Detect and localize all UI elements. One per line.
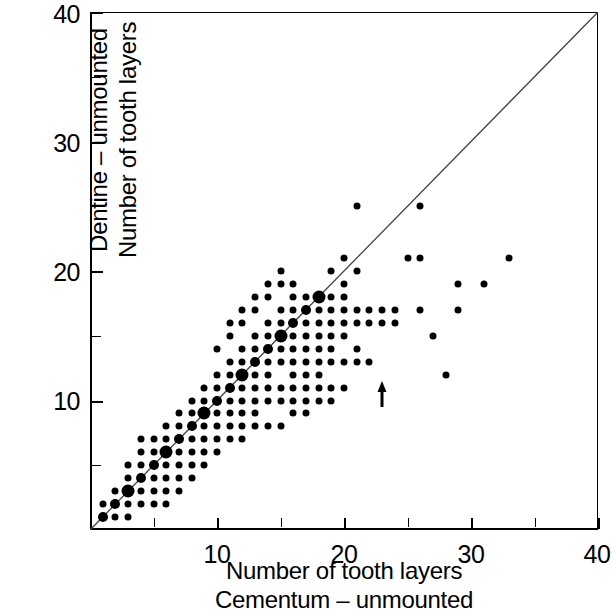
- data-point: [226, 397, 233, 404]
- data-point: [301, 305, 311, 315]
- data-point: [150, 488, 157, 495]
- data-point: [353, 268, 360, 275]
- data-point: [341, 319, 348, 326]
- data-point: [277, 280, 284, 287]
- data-point: [226, 332, 233, 339]
- data-point: [341, 332, 348, 339]
- data-point: [341, 358, 348, 365]
- data-point: [302, 397, 309, 404]
- data-point: [252, 384, 259, 391]
- data-point: [175, 462, 182, 469]
- data-point: [226, 319, 233, 326]
- data-point: [366, 319, 373, 326]
- data-point: [188, 449, 195, 456]
- data-point: [239, 423, 246, 430]
- data-point: [201, 436, 208, 443]
- data-point: [239, 306, 246, 313]
- data-point: [455, 306, 462, 313]
- data-point: [391, 319, 398, 326]
- data-point: [277, 358, 284, 365]
- data-point: [201, 423, 208, 430]
- data-point: [277, 423, 284, 430]
- data-point: [417, 255, 424, 262]
- x-axis-title: Number of tooth layers Cementum – unmoun…: [90, 556, 598, 613]
- data-point: [163, 462, 170, 469]
- data-point: [264, 319, 271, 326]
- data-point: [226, 358, 233, 365]
- data-point: [264, 358, 271, 365]
- data-point: [290, 397, 297, 404]
- data-point: [175, 488, 182, 495]
- data-point: [201, 397, 208, 404]
- data-point: [150, 475, 157, 482]
- data-point: [277, 306, 284, 313]
- data-point: [341, 306, 348, 313]
- data-point: [480, 280, 487, 287]
- data-point: [341, 255, 348, 262]
- data-point: [302, 345, 309, 352]
- data-point: [174, 434, 184, 444]
- data-point: [252, 423, 259, 430]
- data-point: [442, 371, 449, 378]
- data-points-layer: [90, 12, 598, 530]
- data-point: [302, 371, 309, 378]
- data-point: [175, 410, 182, 417]
- data-point: [379, 319, 386, 326]
- data-point: [429, 332, 436, 339]
- data-point: [214, 371, 221, 378]
- data-point: [252, 397, 259, 404]
- data-point: [315, 332, 322, 339]
- data-point: [188, 436, 195, 443]
- data-point: [302, 293, 309, 300]
- data-point: [125, 501, 132, 508]
- data-point: [175, 423, 182, 430]
- data-point: [226, 423, 233, 430]
- data-point: [264, 423, 271, 430]
- data-point: [112, 488, 119, 495]
- data-point: [112, 514, 119, 521]
- x-axis-title-line2: Cementum – unmounted: [90, 585, 598, 613]
- censored-arrow-icon: [377, 381, 388, 407]
- data-point: [252, 371, 259, 378]
- data-point: [315, 358, 322, 365]
- data-point: [163, 436, 170, 443]
- data-point: [366, 306, 373, 313]
- data-point: [315, 306, 322, 313]
- data-point: [315, 345, 322, 352]
- data-point: [198, 407, 211, 420]
- data-point: [175, 475, 182, 482]
- data-point: [188, 397, 195, 404]
- data-point: [137, 488, 144, 495]
- data-point: [264, 280, 271, 287]
- data-point: [455, 280, 462, 287]
- data-point: [239, 384, 246, 391]
- data-point: [417, 203, 424, 210]
- data-point: [236, 368, 249, 381]
- data-point: [226, 410, 233, 417]
- data-point: [214, 410, 221, 417]
- data-point: [312, 290, 325, 303]
- data-point: [137, 449, 144, 456]
- data-point: [239, 319, 246, 326]
- data-point: [315, 319, 322, 326]
- data-point: [328, 345, 335, 352]
- data-point: [226, 436, 233, 443]
- data-point: [353, 358, 360, 365]
- x-axis-title-line1: Number of tooth layers: [90, 556, 598, 585]
- x-tick-40: [598, 518, 600, 529]
- data-point: [149, 460, 159, 470]
- data-point: [201, 384, 208, 391]
- data-point: [163, 488, 170, 495]
- data-point: [250, 357, 260, 367]
- data-point: [290, 345, 297, 352]
- data-point: [175, 449, 182, 456]
- data-point: [163, 501, 170, 508]
- data-point: [214, 384, 221, 391]
- data-point: [353, 319, 360, 326]
- data-point: [353, 203, 360, 210]
- data-point: [353, 345, 360, 352]
- data-point: [212, 396, 222, 406]
- data-point: [239, 345, 246, 352]
- data-point: [264, 384, 271, 391]
- data-point: [341, 384, 348, 391]
